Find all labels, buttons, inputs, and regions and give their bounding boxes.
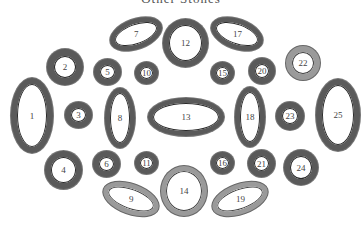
- ring-label: 23: [286, 111, 295, 121]
- ring-2: 2: [47, 49, 83, 85]
- ring-9: 9: [99, 175, 164, 223]
- ring-1: 1: [11, 78, 53, 153]
- ring-label: 8: [118, 113, 123, 123]
- ring-18: 18: [235, 87, 265, 147]
- ring-label: 17: [233, 29, 242, 39]
- ring-label: 10: [142, 68, 151, 78]
- ring-label: 14: [180, 186, 189, 196]
- ring-label: 21: [257, 159, 266, 169]
- ring-20: 20: [249, 58, 275, 84]
- ring-label: 2: [63, 62, 68, 72]
- ring-19: 19: [208, 175, 273, 223]
- ring-label: 24: [297, 163, 306, 173]
- ring-7: 7: [105, 11, 166, 58]
- ring-label: 19: [236, 194, 245, 204]
- ring-21: 21: [248, 150, 275, 177]
- ring-5: 5: [94, 59, 121, 85]
- ring-label: 22: [299, 58, 308, 68]
- ring-16: 16: [211, 152, 234, 174]
- ring-label: 16: [218, 158, 227, 168]
- ring-label: 5: [105, 67, 110, 77]
- ring-label: 20: [258, 66, 267, 76]
- ring-3: 3: [65, 102, 92, 128]
- ring-17: 17: [206, 11, 267, 58]
- ring-label: 1: [30, 111, 35, 121]
- ring-label: 9: [129, 194, 134, 204]
- ring-label: 11: [142, 158, 151, 168]
- ring-22: 22: [286, 46, 320, 80]
- ring-12: 12: [163, 19, 208, 67]
- ring-15: 15: [211, 62, 234, 84]
- ring-label: 25: [334, 110, 343, 120]
- ring-24: 24: [284, 150, 318, 185]
- ring-label: 3: [76, 110, 81, 120]
- ring-4: 4: [45, 151, 82, 189]
- ring-10: 10: [135, 62, 158, 84]
- ring-label: 4: [61, 165, 66, 175]
- ring-label: 6: [104, 159, 109, 169]
- figure-title: Other Stones: [0, 0, 362, 7]
- ring-label: 13: [182, 112, 191, 122]
- ring-11: 11: [135, 152, 158, 174]
- ring-8: 8: [105, 88, 135, 148]
- ring-25: 25: [316, 79, 360, 151]
- ring-23: 23: [276, 102, 304, 130]
- ring-label: 18: [246, 112, 255, 122]
- ring-14: 14: [161, 166, 207, 216]
- ring-13: 13: [148, 98, 224, 136]
- ring-label: 15: [218, 68, 227, 78]
- ring-label: 12: [181, 38, 190, 48]
- ring-6: 6: [93, 151, 120, 177]
- ring-label: 7: [134, 29, 139, 39]
